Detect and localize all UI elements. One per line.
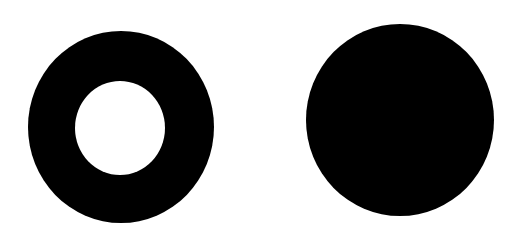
solid-disk <box>306 24 494 216</box>
ring-hole <box>75 81 165 175</box>
ring-shape <box>28 31 214 223</box>
disk-shape <box>306 24 494 216</box>
figure-canvas <box>0 0 520 234</box>
